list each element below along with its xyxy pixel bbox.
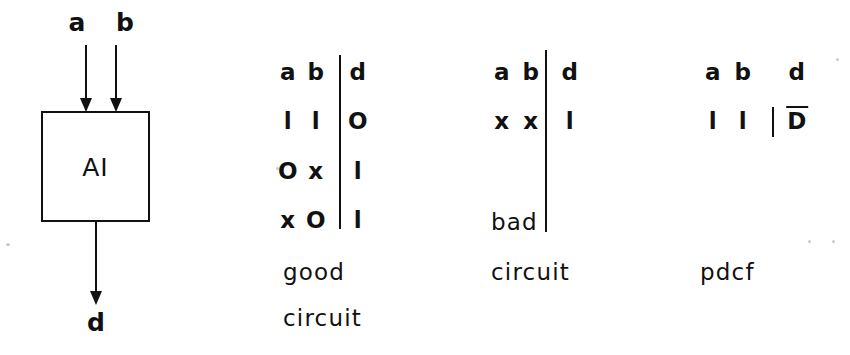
scan-speckle xyxy=(808,240,811,243)
figure-canvas: a b AI d a b d l l O xyxy=(0,0,850,355)
table-cell: l xyxy=(354,209,362,232)
table-divider xyxy=(772,107,774,137)
table-cell: l xyxy=(354,160,362,183)
table-cell: l xyxy=(709,110,717,133)
table-cell: l xyxy=(566,110,574,133)
ai-block: AI xyxy=(41,111,150,222)
overbar-value: D xyxy=(787,109,807,133)
table-caption: good xyxy=(283,261,345,284)
output-arrow-d xyxy=(90,221,102,305)
output-label-d: d xyxy=(87,310,105,335)
table-cell: x xyxy=(308,160,323,183)
ai-block-label: AI xyxy=(82,152,108,181)
input-arrow-b xyxy=(110,45,122,112)
input-arrow-a xyxy=(80,45,92,112)
table-cell: x xyxy=(280,209,295,232)
table-divider xyxy=(545,50,547,232)
table-caption: circuit xyxy=(283,307,362,330)
table-header-b: b xyxy=(523,61,540,84)
table-cell: x xyxy=(494,110,509,133)
table-divider xyxy=(339,55,341,229)
table-caption: circuit xyxy=(491,261,570,284)
input-label-b: b xyxy=(116,10,134,35)
table-header-a: a xyxy=(494,61,510,84)
table-cell: O xyxy=(278,160,298,183)
scan-speckle xyxy=(836,58,839,61)
table-caption: pdcf xyxy=(700,261,755,284)
scan-speckle xyxy=(276,167,279,170)
table-header-d: d xyxy=(562,61,579,84)
table-caption: bad xyxy=(491,211,538,234)
scan-speckle xyxy=(832,240,835,243)
scan-speckle xyxy=(6,243,10,246)
table-header-a: a xyxy=(280,61,296,84)
table-cell: l xyxy=(739,110,747,133)
table-cell: l xyxy=(312,110,320,133)
table-header-b: b xyxy=(735,61,752,84)
table-cell-overbar: D xyxy=(787,109,807,133)
table-header-a: a xyxy=(705,61,721,84)
table-cell: O xyxy=(306,209,326,232)
table-cell: x xyxy=(523,110,538,133)
table-cell: l xyxy=(284,110,292,133)
table-header-d: d xyxy=(789,61,806,84)
input-label-a: a xyxy=(69,10,86,35)
table-header-b: b xyxy=(308,61,325,84)
table-cell: O xyxy=(348,110,368,133)
table-header-d: d xyxy=(350,61,367,84)
